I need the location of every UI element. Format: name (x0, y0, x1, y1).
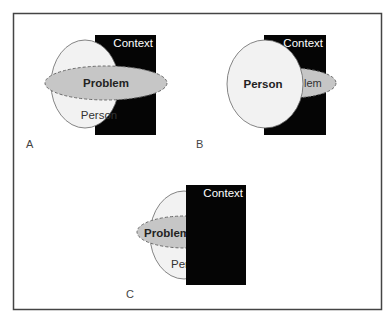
context-label: Context (203, 187, 243, 199)
diagram-figure: Context Problem Person A Context lem Per… (0, 0, 392, 323)
context-label: Context (113, 37, 153, 49)
context-label: Context (283, 37, 323, 49)
panel-label-b: B (196, 138, 203, 150)
problem-label: lem (304, 77, 322, 89)
context-box (186, 185, 246, 285)
person-label: Person (81, 109, 117, 121)
panel-label-c: C (126, 288, 134, 300)
problem-label: Problem (144, 227, 190, 239)
panel-label-a: A (26, 138, 34, 150)
person-label: Person (244, 78, 283, 90)
problem-label: Problem (83, 77, 129, 89)
